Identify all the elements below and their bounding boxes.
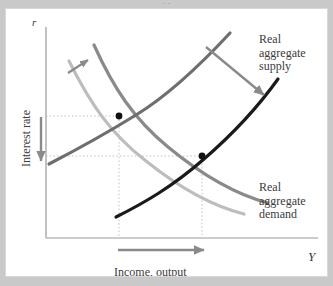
- y-axis-symbol: r: [32, 16, 36, 28]
- aggregate-demand-label-line1: Real: [259, 181, 306, 195]
- equilibrium-dot-initial: [116, 113, 123, 120]
- y-axis-title: Interest rate: [19, 97, 34, 181]
- curve-aggregate-supply-initial: [49, 33, 230, 164]
- figure-container: · ·: [0, 0, 333, 286]
- chart-panel: r Y Interest rate Income, output Real ag…: [5, 8, 328, 277]
- x-axis-symbol: Y: [308, 249, 315, 265]
- aggregate-demand-label: Real aggregate demand: [259, 181, 306, 222]
- aggregate-supply-label-line3: supply: [259, 60, 306, 74]
- equilibrium-dot-new: [199, 153, 206, 160]
- supply-shift-arrow: [206, 47, 264, 95]
- aggregate-demand-label-line3: demand: [259, 208, 306, 222]
- aggregate-demand-label-line2: aggregate: [259, 195, 306, 209]
- x-axis-title: Income, output: [114, 265, 187, 277]
- aggregate-supply-label-line1: Real: [259, 33, 306, 47]
- clipped-title-strip: · ·: [0, 0, 333, 7]
- aggregate-supply-label-line2: aggregate: [259, 47, 306, 61]
- aggregate-supply-label: Real aggregate supply: [259, 33, 306, 74]
